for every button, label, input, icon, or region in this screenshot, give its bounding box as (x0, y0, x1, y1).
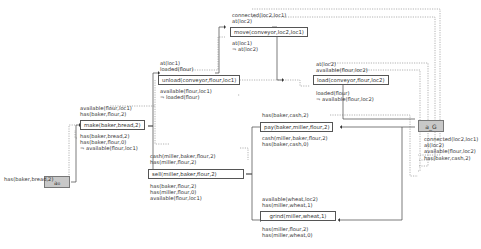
pay-pre-0: has(baker,cash,2) (262, 112, 308, 118)
make-preconditions: available(flour,loc1) has(baker,flour,2) (80, 105, 132, 117)
load-preconditions: at(loc2) available(flour,loc2) (316, 61, 368, 73)
init-effect: has(baker,bread,2) (4, 176, 53, 182)
move-pre-1: at(loc2) (232, 18, 286, 24)
unload-eff-1: ¬ loaded(flour) (160, 94, 212, 100)
goal-pre-3: has(baker,cash,2) (424, 155, 478, 161)
action-load[interactable]: load(conveyor,flour,loc2) (313, 75, 389, 85)
make-eff-2: ¬ available(flour,loc1) (80, 145, 138, 151)
make-pre-1: has(baker,flour,2) (80, 111, 132, 117)
pay-effects: cash(miller,baker,flour,2) has(baker,cas… (262, 135, 328, 147)
action-unload-label: unload(conveyor,flour,loc1) (162, 77, 236, 83)
grind-preconditions: available(wheat,loc2) has(miller,wheat,1… (262, 196, 318, 208)
action-move[interactable]: move(conveyor,loc2,loc1) (230, 27, 308, 37)
pay-preconditions: has(baker,cash,2) (262, 112, 308, 118)
unload-pre-1: loaded(flour) (160, 66, 193, 72)
goal-node-label: a_G (425, 123, 436, 130)
goal-pre-2: available(flour,loc2) (424, 148, 478, 154)
move-eff-1: ¬ at(loc2) (232, 46, 258, 52)
load-pre-1: available(flour,loc2) (316, 67, 368, 73)
move-preconditions: connected(loc2,loc1) at(loc2) (232, 12, 286, 24)
grind-effects: has(miller,flour,2) has(miller,wheat,0) (262, 226, 312, 238)
grind-pre-1: has(miller,wheat,1) (262, 202, 318, 208)
init-node-label: a₀ (54, 179, 60, 186)
action-make[interactable]: make(baker,bread,2) (80, 120, 145, 130)
make-effects: has(baker,bread,2) has(baker,flour,0) ¬ … (80, 133, 138, 152)
sell-eff-2: available(flour,loc1) (150, 195, 202, 201)
grind-eff-1: has(miller,wheat,0) (262, 232, 312, 238)
action-pay[interactable]: pay(baker,miller,flour,2) (260, 122, 333, 132)
action-grind-label: grind(miller,wheat,1) (270, 213, 327, 219)
action-unload[interactable]: unload(conveyor,flour,loc1) (158, 75, 240, 85)
action-make-label: make(baker,bread,2) (84, 122, 141, 128)
unload-effects: available(flour,loc1) ¬ loaded(flour) (160, 88, 212, 100)
action-move-label: move(conveyor,loc2,loc1) (234, 29, 304, 35)
load-effects: loaded(flour) ¬ available(flour,loc2) (316, 90, 374, 102)
pay-eff-1: has(baker,cash,0) (262, 141, 328, 147)
action-sell[interactable]: sell(miller,baker,flour,2) (148, 169, 244, 179)
action-load-label: load(conveyor,flour,loc2) (317, 77, 385, 83)
sell-pre-1: has(miller,flour,2) (150, 159, 216, 165)
goal-preconditions: connected(loc2,loc1) at(loc2) available(… (424, 136, 478, 161)
edges-layer (0, 0, 481, 249)
action-pay-label: pay(baker,miller,flour,2) (264, 124, 329, 130)
goal-node[interactable]: a_G (418, 120, 444, 132)
action-sell-label: sell(miller,baker,flour,2) (152, 171, 217, 177)
move-effects: at(loc1) ¬ at(loc2) (232, 40, 258, 52)
load-eff-1: ¬ available(flour,loc2) (316, 96, 374, 102)
action-grind[interactable]: grind(miller,wheat,1) (260, 211, 336, 221)
sell-effects: has(baker,flour,2) has(miller,flour,0) a… (150, 183, 202, 202)
sell-preconditions: cash(miller,baker,flour,2) has(miller,fl… (150, 153, 216, 165)
unload-preconditions: at(loc1) loaded(flour) (160, 60, 193, 72)
